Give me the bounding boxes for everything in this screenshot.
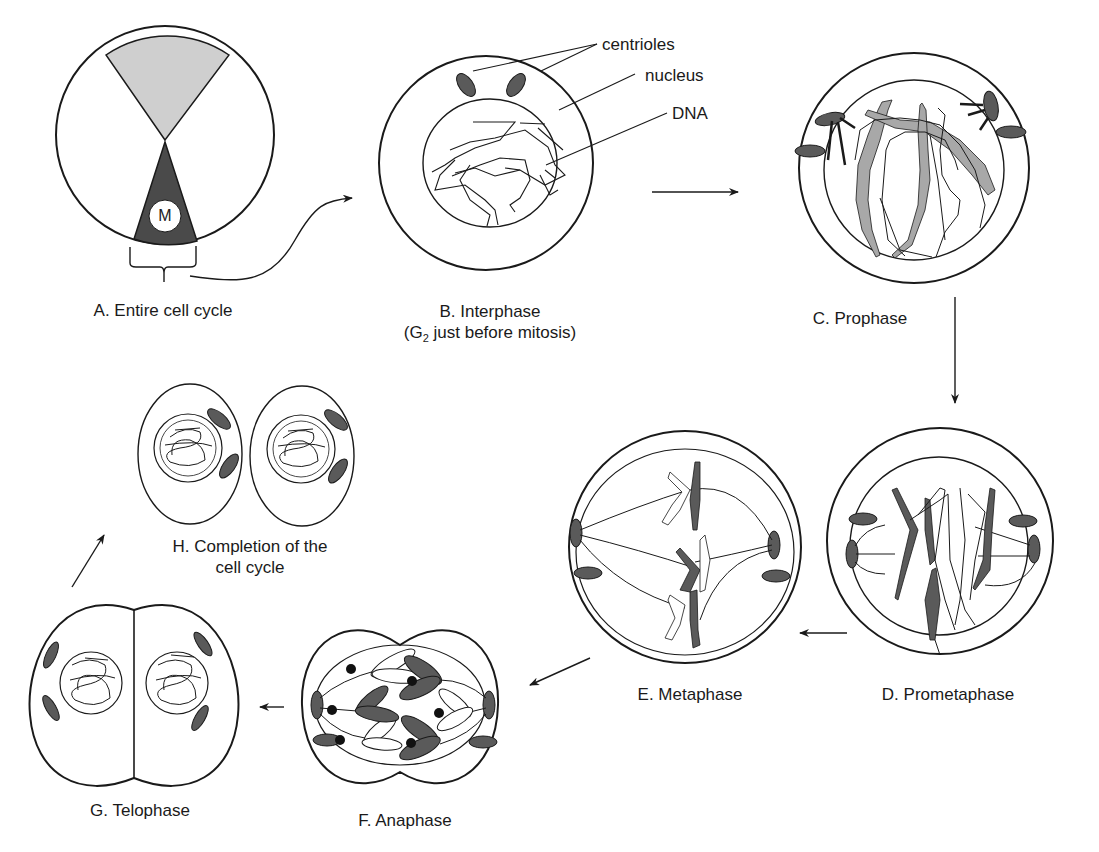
stage-c-label: C. Prophase <box>800 308 920 329</box>
stage-g-label: G. Telophase <box>70 800 210 821</box>
centriole <box>1009 515 1037 527</box>
stage-c-prophase <box>795 53 1029 283</box>
stage-b-title: B. Interphase <box>380 301 600 322</box>
centriole <box>762 570 790 582</box>
annotation-dna: DNA <box>672 104 708 124</box>
centriole <box>469 736 497 748</box>
brace <box>130 246 196 282</box>
arrow-g-to-h <box>72 535 104 587</box>
stage-b-label: B. Interphase (G2 just before mitosis) <box>380 301 600 349</box>
annotation-centrioles: centrioles <box>602 35 675 55</box>
centriole <box>570 519 582 547</box>
centriole <box>574 567 602 579</box>
stage-e-metaphase <box>569 431 801 663</box>
arrow-e-to-f <box>530 658 590 685</box>
stage-f-label: F. Anaphase <box>345 810 465 831</box>
annotation-nucleus: nucleus <box>645 66 704 86</box>
stage-g-telophase <box>30 605 239 786</box>
subtitle-suffix: just before mitosis) <box>429 323 576 342</box>
subtitle-prefix: (G <box>404 323 423 342</box>
cell-cycle-diagram <box>0 0 1099 852</box>
stage-h-label: H. Completion of the cell cycle <box>140 536 360 578</box>
stage-d-prometaphase <box>827 428 1053 655</box>
stage-h-line2: cell cycle <box>140 557 360 578</box>
stage-d-label: D. Prometaphase <box>868 684 1028 705</box>
stage-h-completion <box>138 384 354 526</box>
centriole <box>996 126 1026 138</box>
m-phase-label: M <box>150 206 180 226</box>
stage-h-line1: H. Completion of the <box>140 536 360 557</box>
centriole <box>849 513 877 525</box>
centriole <box>795 145 825 157</box>
stage-b-interphase <box>379 44 667 270</box>
stage-f-anaphase <box>302 630 498 783</box>
stage-b-subtitle: (G2 just before mitosis) <box>380 322 600 349</box>
stage-a-cell-cycle-pie <box>56 26 352 282</box>
stage-a-label: A. Entire cell cycle <box>58 300 268 321</box>
centriole <box>1028 535 1040 563</box>
stage-e-label: E. Metaphase <box>620 684 760 705</box>
